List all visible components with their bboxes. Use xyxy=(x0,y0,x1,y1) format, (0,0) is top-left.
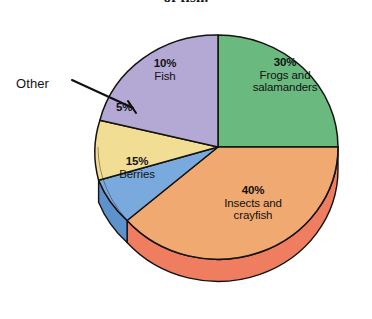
slice-label-fish: 10% Fish xyxy=(141,57,189,82)
slice-percent-berries: 15% xyxy=(104,155,170,168)
slice-percent-other: 5% xyxy=(116,101,150,114)
slice-name-fish: Fish xyxy=(141,70,189,83)
slice-label-frogs-and-salamanders: 30% Frogs and salamanders xyxy=(228,56,342,94)
slice-label-other: 5% xyxy=(116,101,150,114)
pie-chart-figure: of fish. xyxy=(0,0,372,319)
slice-percent-insects-and-crayfish: 40% xyxy=(196,184,310,197)
slice-name-insects-and-crayfish-line1: Insects and xyxy=(196,197,310,210)
pie-chart-graphic xyxy=(0,0,372,319)
slice-name-berries: Berries xyxy=(104,168,170,181)
slice-label-berries: 15% Berries xyxy=(104,155,170,180)
slice-name-frogs-and-salamanders-line2: salamanders xyxy=(228,81,342,94)
slice-percent-frogs-and-salamanders: 30% xyxy=(228,56,342,69)
slice-label-insects-and-crayfish: 40% Insects and crayfish xyxy=(196,184,310,222)
slice-name-insects-and-crayfish-line2: crayfish xyxy=(196,209,310,222)
slice-percent-fish: 10% xyxy=(141,57,189,70)
slice-name-frogs-and-salamanders-line1: Frogs and xyxy=(228,69,342,82)
other-callout-label: Other xyxy=(16,76,49,91)
